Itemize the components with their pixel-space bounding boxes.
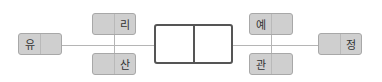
node-label: 산	[114, 54, 135, 74]
node-label: 유	[19, 34, 40, 54]
node-label: 예	[250, 14, 271, 34]
node-top-right: 예	[249, 13, 293, 35]
node-divider	[271, 54, 272, 74]
vertical-connector-left	[114, 35, 115, 54]
node-divider	[271, 14, 272, 34]
center-divider	[193, 26, 195, 62]
node-divider	[40, 34, 41, 54]
vertical-connector-right	[271, 35, 272, 54]
horizontal-connector-right	[233, 45, 319, 46]
node-bottom-left: 산	[92, 53, 136, 75]
node-label: 정	[340, 34, 361, 54]
center-box	[154, 24, 233, 64]
horizontal-connector-left	[62, 45, 154, 46]
node-top-left: 리	[92, 13, 136, 35]
node-label: 리	[114, 14, 135, 34]
node-bottom-right: 관	[249, 53, 293, 75]
node-right: 정	[318, 33, 362, 55]
node-label: 관	[250, 54, 271, 74]
node-left: 유	[18, 33, 62, 55]
